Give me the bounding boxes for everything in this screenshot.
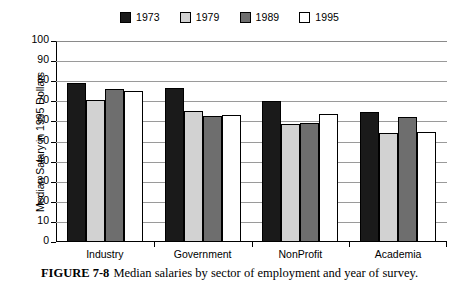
y-tick-label-50: 50 [37,135,49,146]
bar-group-government [154,41,252,242]
bar-academia-1995 [417,132,436,242]
legend-swatch-1979 [180,12,191,23]
bar-academia-1989 [398,117,417,242]
bar-group-nonprofit [252,41,350,242]
bar-group-academia [349,41,447,242]
figure-container: 1973197919891995 Median Salary in 1995 D… [0,0,459,292]
bar-industry-1989 [105,89,124,242]
bar-nonprofit-1995 [319,114,338,242]
y-tick-label-100: 100 [31,34,49,45]
x-axis-label-nonprofit: NonProfit [252,249,350,260]
y-tick-label-30: 30 [37,175,49,186]
legend-label-1989: 1989 [256,12,280,23]
y-tick-label-80: 80 [37,74,49,85]
y-axis-ticks: 1009080706050403020100 [0,41,56,242]
x-divider-2 [252,242,253,247]
y-tick-label-40: 40 [37,155,49,166]
y-tick-label-60: 60 [37,114,49,125]
bar-government-1989 [203,116,222,242]
x-axis-label-industry: Industry [56,249,154,260]
bar-nonprofit-1979 [281,124,300,242]
x-axis-label-academia: Academia [349,249,447,260]
y-tick-label-10: 10 [37,215,49,226]
figure-number: FIGURE 7-8 [41,266,109,280]
y-tick-label-70: 70 [37,94,49,105]
legend-label-1979: 1979 [196,12,220,23]
bar-industry-1995 [124,91,143,242]
bar-industry-1979 [86,100,105,242]
x-divider-3 [349,242,350,247]
y-tick-label-0: 0 [43,235,49,246]
x-axis-labels: IndustryGovernmentNonProfitAcademia [56,249,447,260]
x-divider-1 [154,242,155,247]
legend-item-1979: 1979 [180,12,220,23]
figure-caption: FIGURE 7-8Median salaries by sector of e… [0,266,459,280]
legend-label-1973: 1973 [136,12,160,23]
bar-academia-1973 [360,112,379,242]
bars-layer [56,41,447,242]
bar-industry-1973 [67,83,86,242]
legend-swatch-1989 [240,12,251,23]
bar-government-1979 [184,111,203,242]
bar-government-1995 [222,115,241,242]
chart-legend: 1973197919891995 [0,12,459,23]
y-tick-label-90: 90 [37,54,49,65]
legend-item-1973: 1973 [120,12,160,23]
bar-nonprofit-1973 [262,101,281,242]
bar-group-industry [56,41,154,242]
x-axis-label-government: Government [154,249,252,260]
legend-label-1995: 1995 [315,12,339,23]
bar-academia-1979 [379,133,398,242]
bar-nonprofit-1989 [300,123,319,242]
y-tick-label-20: 20 [37,195,49,206]
plot-area [56,41,447,242]
legend-swatch-1995 [299,12,310,23]
legend-item-1995: 1995 [299,12,339,23]
legend-item-1989: 1989 [240,12,280,23]
legend-swatch-1973 [120,12,131,23]
x-divider-end [446,242,447,247]
bar-government-1973 [165,88,184,242]
caption-text: Median salaries by sector of employment … [113,266,418,280]
